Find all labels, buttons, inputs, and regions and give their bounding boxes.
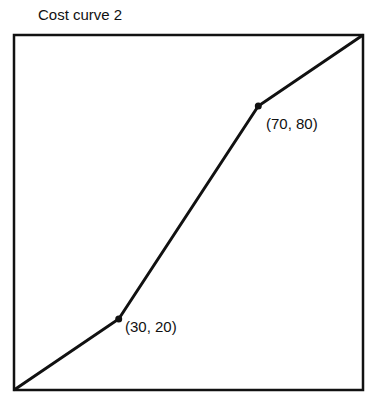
point-marker xyxy=(255,103,262,110)
point-label-30-20: (30, 20) xyxy=(125,318,177,335)
point-label-70-80: (70, 80) xyxy=(266,115,318,132)
cost-curve-line xyxy=(14,35,363,390)
point-marker xyxy=(115,316,122,323)
cost-curve-chart: (30, 20) (70, 80) xyxy=(0,0,376,396)
